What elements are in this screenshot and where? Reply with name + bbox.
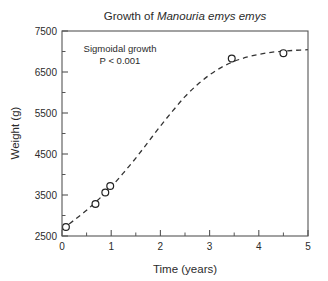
annotation-p-value: P < 0.001	[100, 55, 141, 66]
chart-title: Growth of Manouria emys emys	[104, 10, 267, 22]
y-tick-label: 6500	[35, 67, 58, 78]
chart-title-species: Manouria emys emys	[157, 10, 267, 22]
chart-title-prefix: Growth of	[104, 10, 157, 22]
annotation-sigmoidal-growth: Sigmoidal growth	[84, 43, 157, 54]
x-tick-label: 2	[158, 241, 164, 252]
y-tick-label: 7500	[35, 26, 58, 37]
y-tick-label: 5500	[35, 108, 58, 119]
y-tick-label: 2500	[35, 231, 58, 242]
x-tick-label: 0	[59, 241, 65, 252]
y-tick-label: 4500	[35, 149, 58, 160]
y-tick-label: 3500	[35, 190, 58, 201]
chart-svg: Growth of Manouria emys emys 25003500450…	[0, 0, 328, 281]
data-point	[92, 201, 99, 208]
data-point	[107, 183, 114, 190]
data-point	[228, 55, 235, 62]
y-axis-label: Weight (g)	[9, 106, 21, 159]
x-tick-label: 5	[305, 241, 311, 252]
growth-chart-figure: Growth of Manouria emys emys 25003500450…	[0, 0, 328, 281]
x-tick-label: 3	[207, 241, 213, 252]
x-tick-label: 1	[108, 241, 114, 252]
data-point	[102, 189, 109, 196]
x-tick-label: 4	[256, 241, 262, 252]
data-point	[280, 50, 287, 57]
data-point	[63, 224, 70, 231]
x-axis-label: Time (years)	[153, 263, 217, 275]
